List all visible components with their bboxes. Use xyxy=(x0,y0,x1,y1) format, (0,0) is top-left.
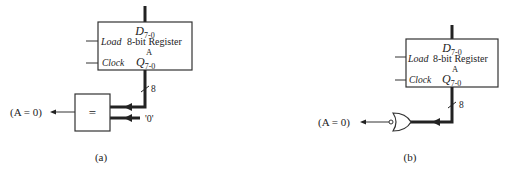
load-label-a: Load xyxy=(100,36,123,47)
load-label-b: Load xyxy=(407,53,430,64)
figure-b: D7-0 Load 8-bit Register A Clock Q7-0 8 … xyxy=(318,25,498,164)
bus-arrow-b xyxy=(432,118,440,126)
clock-label-b: Clock xyxy=(409,75,432,85)
register-name-a: 8-bit Register xyxy=(127,36,182,47)
output-arrow-b xyxy=(360,120,366,125)
constant-label-a: '0' xyxy=(145,113,154,124)
bus-width-b: 8 xyxy=(459,100,464,110)
caption-a: (a) xyxy=(95,151,108,164)
caption-b: (b) xyxy=(404,151,417,164)
comparator-symbol-a: = xyxy=(89,105,96,120)
figure-a: D7-0 Load 8-bit Register A Clock Q7-0 8 … xyxy=(10,6,192,164)
output-arrow-a xyxy=(50,110,56,115)
clock-label-a: Clock xyxy=(102,58,125,68)
register-id-b: A xyxy=(452,64,459,74)
bus-arrow-a xyxy=(124,103,132,111)
output-label-b: (A = 0) xyxy=(318,116,350,129)
output-bus-a xyxy=(110,70,145,107)
output-bus-b xyxy=(407,87,452,122)
diagram-canvas: D7-0 Load 8-bit Register A Clock Q7-0 8 … xyxy=(0,0,507,174)
constant-arrow-a xyxy=(124,114,132,122)
output-label-a: (A = 0) xyxy=(10,106,42,119)
bus-width-a: 8 xyxy=(151,84,156,94)
register-name-b: 8-bit Register xyxy=(433,53,488,64)
register-id-a: A xyxy=(146,47,153,57)
nor-bubble-b xyxy=(389,120,393,124)
nor-gate-b xyxy=(393,113,411,131)
